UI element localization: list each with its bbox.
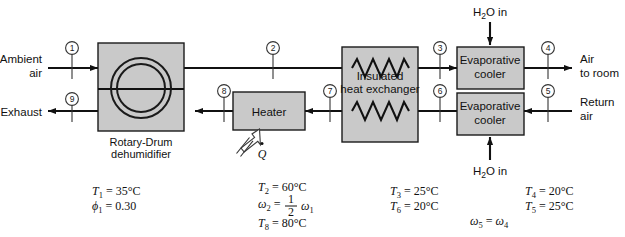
water-in-top-label: H2O in	[473, 6, 507, 21]
process-flow-diagram: 1 9 2 8 7 3 6	[0, 0, 625, 237]
ambient-air-label-line1: Ambient	[0, 53, 43, 65]
omega-right-sym: ω	[496, 214, 504, 228]
heat-exchanger-label-line2: heat exchanger	[340, 83, 419, 95]
dehumidifier-label-line2: dehumidifier	[111, 148, 171, 160]
omega-left-sym: ω	[470, 214, 478, 228]
air-to-room-label-line2: to room	[580, 67, 619, 79]
return-air-label-line1: Return	[580, 96, 615, 108]
heat-rate-dot	[261, 142, 264, 145]
state-point-label: 9	[70, 94, 75, 104]
water-in-bottom-label: H2O in	[473, 165, 507, 180]
state-point-4: 4	[542, 42, 555, 79]
state-point-label: 7	[328, 86, 333, 96]
svg-text:T2 = 60°C: T2 = 60°C	[258, 180, 307, 196]
evap-cooler-bottom-label-line1: Evaporative	[460, 100, 521, 112]
state-point-2: 2	[267, 42, 280, 79]
return-air-label-line2: air	[580, 110, 593, 122]
heat-rate-symbol: Q	[258, 147, 267, 161]
annotation-block-state1: T1 = 35°C ϕ1 = 0.30	[92, 184, 141, 215]
ann-val: 35°C	[116, 184, 141, 198]
dehumidifier-label-line1: Rotary-Drum	[110, 136, 173, 148]
svg-text:T8 = 80°C: T8 = 80°C	[258, 216, 307, 232]
evap-cooler-top-label-line2: cooler	[474, 68, 505, 80]
ann-val: 60°C	[282, 180, 307, 194]
diagram-canvas: 1 9 2 8 7 3 6	[0, 0, 625, 237]
ann-sym: ω	[258, 197, 266, 211]
svg-text:ω1: ω1	[301, 199, 314, 215]
evap-cooler-top-label-line1: Evaporative	[460, 54, 521, 66]
svg-text:T6 = 20°C: T6 = 20°C	[390, 199, 439, 215]
state-point-label: 5	[546, 86, 551, 96]
svg-text:T4 = 20°C: T4 = 20°C	[525, 184, 574, 200]
state-point-label: 8	[222, 86, 227, 96]
state-point-7: 7	[324, 85, 337, 122]
state-point-label: 6	[438, 86, 443, 96]
state-point-label: 2	[271, 43, 276, 53]
ann-val: 20°C	[414, 199, 439, 213]
state-point-label: 4	[546, 43, 551, 53]
air-to-room-label-line1: Air	[580, 53, 594, 65]
fraction-of-sub: 1	[309, 205, 313, 215]
fraction-numerator: 1	[288, 192, 294, 206]
state-point-9: 9	[66, 93, 79, 122]
svg-text:T5 = 25°C: T5 = 25°C	[525, 199, 574, 215]
ann-val: 25°C	[549, 199, 574, 213]
svg-text:ω2 =: ω2 =	[258, 197, 281, 213]
evap-cooler-bottom-label-line2: cooler	[474, 114, 505, 126]
fraction-of-sym: ω	[301, 199, 309, 213]
ann-val: 80°C	[282, 216, 307, 230]
annotation-block-omega: ω5 = ω4	[470, 214, 509, 230]
omega-right-sub: 4	[504, 220, 509, 230]
state-point-1: 1	[66, 42, 79, 79]
svg-text:ϕ1 = 0.30: ϕ1 = 0.30	[92, 199, 136, 215]
state-point-6: 6	[434, 85, 447, 122]
svg-text:ω5 = ω4: ω5 = ω4	[470, 214, 509, 230]
ambient-air-label-line2: air	[29, 67, 42, 79]
heater-label: Heater	[252, 106, 287, 118]
heat-exchanger-label-line1: Insulated	[357, 70, 404, 82]
state-point-3: 3	[434, 42, 447, 79]
ann-val: 25°C	[414, 184, 439, 198]
ann-val: 20°C	[549, 184, 574, 198]
annotation-block-state4-5: T4 = 20°C T5 = 25°C	[525, 184, 574, 215]
exhaust-label: Exhaust	[0, 106, 42, 118]
state-point-label: 3	[438, 43, 443, 53]
ann-val: 0.30	[115, 199, 136, 213]
svg-text:T3 = 25°C: T3 = 25°C	[390, 184, 439, 200]
state-point-label: 1	[70, 43, 75, 53]
annotation-block-state3-6: T3 = 25°C T6 = 20°C	[390, 184, 439, 215]
state-point-5: 5	[542, 85, 555, 122]
svg-text:T1 = 35°C: T1 = 35°C	[92, 184, 141, 200]
state-point-8: 8	[218, 85, 231, 122]
annotation-block-state2: T2 = 60°C ω2 = 1 2 ω1 T8 = 80°C	[258, 180, 314, 232]
